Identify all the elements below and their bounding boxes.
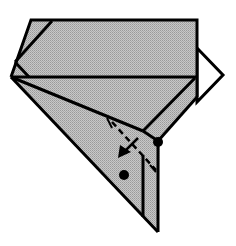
origami-diagram [0, 0, 236, 246]
reference-dot-lower [119, 170, 129, 180]
shaded-paper-body [11, 20, 197, 232]
reference-dot-upper [153, 137, 163, 147]
white-flap [197, 48, 223, 102]
